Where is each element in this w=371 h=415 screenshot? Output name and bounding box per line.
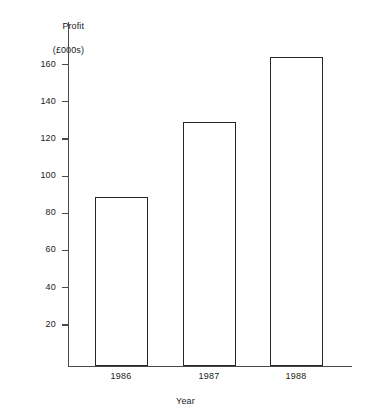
y-tick-mark-40 [62, 287, 69, 288]
x-tick-label-1987: 1987 [174, 371, 244, 382]
y-tick-label-20: 20 [16, 320, 56, 329]
bar-1987 [183, 122, 236, 366]
y-tick-label-160: 160 [16, 60, 56, 69]
y-tick-label-40: 40 [16, 283, 56, 292]
x-tick-label-1988: 1988 [261, 371, 331, 382]
y-axis-line [68, 22, 69, 367]
y-tick-label-60: 60 [16, 245, 56, 254]
y-tick-label-120: 120 [16, 134, 56, 143]
y-tick-mark-60 [62, 250, 69, 251]
y-tick-label-100: 100 [16, 171, 56, 180]
y-tick-mark-140 [62, 101, 69, 102]
x-tick-label-1986: 1986 [86, 371, 156, 382]
y-tick-mark-160 [62, 64, 69, 65]
y-axis-title-line-1: Profit [62, 21, 84, 31]
y-tick-mark-20 [62, 324, 69, 325]
bar-chart: Profit (£000s) 160 140 120 100 80 60 40 … [0, 0, 371, 415]
y-tick-mark-80 [62, 213, 69, 214]
x-axis-title: Year [0, 396, 371, 407]
y-axis-title: Profit (£000s) [22, 8, 84, 56]
bar-1988 [270, 57, 323, 366]
bar-1986 [95, 197, 148, 366]
y-tick-label-80: 80 [16, 208, 56, 217]
y-tick-label-140: 140 [16, 97, 56, 106]
y-tick-mark-120 [62, 138, 69, 139]
y-tick-mark-100 [62, 176, 69, 177]
